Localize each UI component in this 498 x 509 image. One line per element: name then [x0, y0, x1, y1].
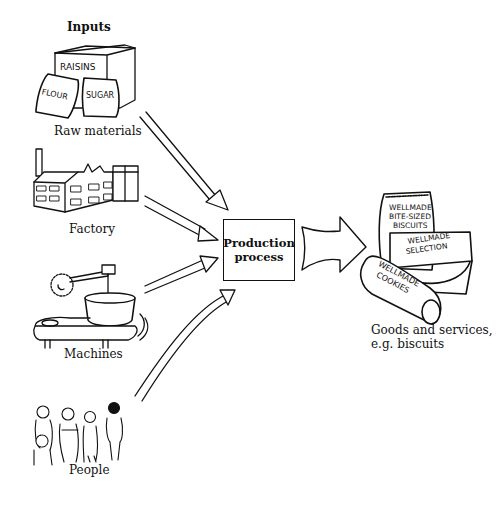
factory-icon	[34, 149, 138, 212]
arrow-raw-materials	[140, 112, 228, 210]
raisins-text: RAISINS	[60, 62, 96, 72]
machine-icon	[34, 265, 148, 348]
output-line-1: Goods and services,	[371, 323, 492, 337]
output-label: Goods and services, e.g. biscuits	[371, 323, 492, 351]
svg-text:SUGAR: SUGAR	[86, 91, 115, 100]
label-machines: Machines	[64, 347, 123, 361]
svg-text:BISCUITS: BISCUITS	[393, 221, 428, 230]
process-line-1: Production	[223, 236, 295, 250]
label-raw-materials: Raw materials	[54, 124, 142, 138]
process-line-2: process	[223, 250, 295, 264]
inputs-title: Inputs	[67, 20, 111, 34]
arrow-output	[302, 217, 366, 272]
raw-materials-icon	[36, 45, 135, 118]
label-factory: Factory	[69, 222, 115, 236]
arrow-machines	[145, 256, 218, 293]
svg-text:BITE-SIZED: BITE-SIZED	[389, 212, 431, 221]
output-line-2: e.g. biscuits	[371, 337, 492, 351]
label-people: People	[69, 463, 109, 477]
production-process-box: Production process	[223, 219, 295, 281]
svg-text:WELLMADE: WELLMADE	[389, 203, 432, 212]
people-icon	[34, 403, 123, 466]
arrow-people	[135, 290, 235, 401]
